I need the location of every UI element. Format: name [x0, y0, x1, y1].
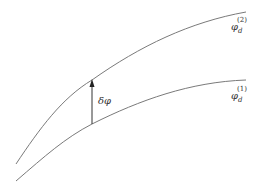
curve-phi-d-1: [16, 80, 246, 181]
diagram-canvas: δφ φ d (2) φ d (1): [0, 0, 268, 193]
svg-text:d: d: [238, 96, 243, 104]
delta-phi-label: δφ: [98, 95, 111, 106]
svg-text:(2): (2): [237, 16, 247, 24]
arrow-head-icon: [90, 79, 95, 87]
svg-text:(1): (1): [237, 85, 247, 93]
curve-phi-d-2: [16, 12, 246, 164]
label-phi-d-2: φ d (2): [231, 16, 247, 35]
svg-text:d: d: [238, 27, 243, 35]
label-phi-d-1: φ d (1): [231, 85, 247, 104]
